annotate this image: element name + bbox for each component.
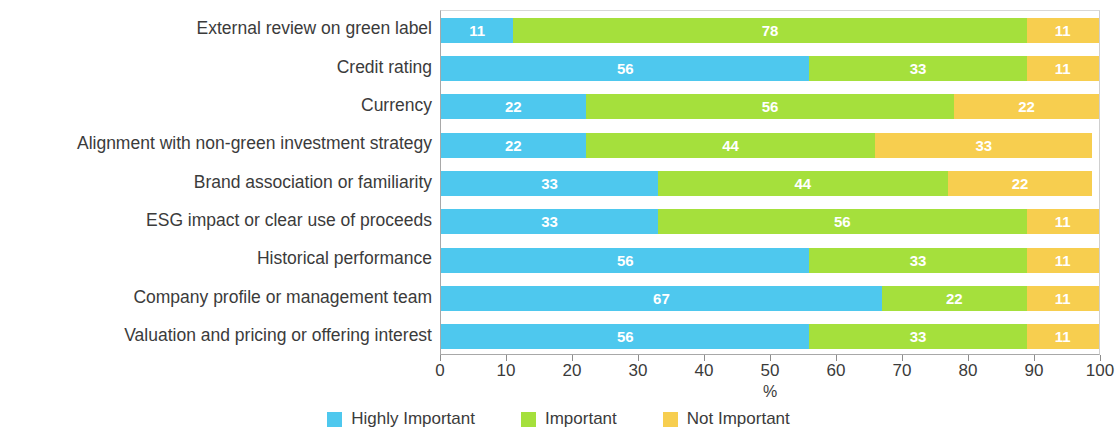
- bar-row: 563311: [441, 248, 1099, 273]
- bar-segment: 11: [1027, 248, 1099, 273]
- x-tick-label: 60: [827, 361, 846, 381]
- x-tick-label: 0: [435, 361, 444, 381]
- x-tick-label: 50: [761, 361, 780, 381]
- legend-swatch-icon: [327, 412, 342, 427]
- bar-row: 672211: [441, 286, 1099, 311]
- category-label: Credit rating: [0, 59, 432, 77]
- bar-segment: 33: [441, 209, 658, 234]
- bar-segment: 56: [441, 56, 809, 81]
- legend-label: Not Important: [687, 409, 790, 429]
- bar-row: 335611: [441, 209, 1099, 234]
- category-label: External review on green label: [0, 20, 432, 38]
- bar-row: 224433: [441, 133, 1099, 158]
- category-label: Historical performance: [0, 250, 432, 268]
- bar-row: 117811: [441, 18, 1099, 43]
- stacked-bar-chart: External review on green labelCredit rat…: [0, 0, 1117, 436]
- bar-segment: 78: [513, 18, 1026, 43]
- bar-segment: 67: [441, 286, 882, 311]
- category-label: Alignment with non-green investment stra…: [0, 135, 432, 153]
- bar-row: 563311: [441, 324, 1099, 349]
- legend-swatch-icon: [521, 412, 536, 427]
- bar-segment: 33: [809, 324, 1026, 349]
- bar-segment: 11: [1027, 18, 1099, 43]
- bar-segment: 11: [441, 18, 513, 43]
- bar-segment: 56: [658, 209, 1026, 234]
- x-axis-title: %: [440, 383, 1100, 401]
- bar-segment: 33: [809, 56, 1026, 81]
- plot-area: 1178115633112256222244333344223356115633…: [440, 10, 1100, 355]
- x-tick-label: 90: [1025, 361, 1044, 381]
- bar-segment: 11: [1027, 286, 1099, 311]
- category-label: Valuation and pricing or offering intere…: [0, 327, 432, 345]
- bar-segment: 11: [1027, 209, 1099, 234]
- legend-label: Important: [545, 409, 617, 429]
- x-tick-label: 100: [1086, 361, 1114, 381]
- bar-segment: 56: [586, 94, 954, 119]
- bar-segment: 22: [882, 286, 1027, 311]
- bar-segment: 22: [441, 133, 586, 158]
- bar-segment: 11: [1027, 324, 1099, 349]
- category-label: ESG impact or clear use of proceeds: [0, 212, 432, 230]
- x-tick-label: 10: [497, 361, 516, 381]
- bar-row: 563311: [441, 56, 1099, 81]
- legend-label: Highly Important: [351, 409, 475, 429]
- category-label: Brand association or familiarity: [0, 174, 432, 192]
- category-label: Currency: [0, 97, 432, 115]
- bar-row: 334422: [441, 171, 1099, 196]
- bar-segment: 22: [441, 94, 586, 119]
- legend-item[interactable]: Important: [521, 409, 617, 429]
- bar-segment: 56: [441, 324, 809, 349]
- bar-segment: 11: [1027, 56, 1099, 81]
- bar-segment: 22: [948, 171, 1093, 196]
- bar-row: 225622: [441, 94, 1099, 119]
- x-tick-label: 30: [629, 361, 648, 381]
- category-axis-labels: External review on green labelCredit rat…: [0, 10, 432, 355]
- x-tick-label: 70: [893, 361, 912, 381]
- x-tick-label: 20: [563, 361, 582, 381]
- bar-segment: 44: [586, 133, 876, 158]
- legend-swatch-icon: [663, 412, 678, 427]
- bar-segment: 22: [954, 94, 1099, 119]
- bar-segment: 33: [441, 171, 658, 196]
- bar-segment: 44: [658, 171, 948, 196]
- x-axis-tick-labels: 0102030405060708090100: [440, 361, 1100, 383]
- x-tick-label: 40: [695, 361, 714, 381]
- legend-item[interactable]: Highly Important: [327, 409, 475, 429]
- category-label: Company profile or management team: [0, 289, 432, 307]
- chart-legend: Highly ImportantImportantNot Important: [0, 409, 1117, 429]
- bar-segment: 33: [875, 133, 1092, 158]
- x-tick-label: 80: [959, 361, 978, 381]
- bar-segment: 33: [809, 248, 1026, 273]
- bar-segment: 56: [441, 248, 809, 273]
- legend-item[interactable]: Not Important: [663, 409, 790, 429]
